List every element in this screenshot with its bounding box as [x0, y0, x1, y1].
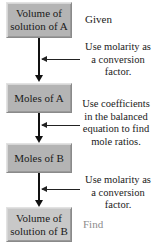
flow-arrow-2-head-icon [35, 136, 43, 143]
annotation-1: Use molarity as a conversion factor. [81, 41, 155, 79]
annotation-2-pointer-icon [42, 125, 80, 126]
box-moles-a: Moles of A [6, 83, 72, 113]
box-volume-solution-b: Volume of solution of B [6, 207, 72, 242]
box-volume-solution-a-line2: solution of A [10, 20, 67, 33]
flow-arrow-3-line [38, 173, 40, 201]
box-volume-solution-a: Volume of solution of A [6, 2, 72, 38]
annotation-3-line-2: a conversion [81, 187, 155, 200]
annotation-2: Use coefficients in the balanced equatio… [77, 98, 155, 148]
annotation-2-line-3: equation to find [77, 123, 155, 136]
annotation-2-line-4: mole ratios. [77, 136, 155, 149]
annotation-3-line-1: Use molarity as [81, 174, 155, 187]
box-moles-a-label: Moles of A [14, 92, 64, 105]
annotation-3: Use molarity as a conversion factor. [81, 174, 155, 212]
annotation-1-line-2: a conversion [81, 54, 155, 67]
box-volume-solution-b-line1: Volume of [10, 212, 67, 225]
annotation-1-line-3: factor. [81, 66, 155, 79]
annotation-3-pointer-icon [42, 189, 80, 190]
box-volume-solution-b-line2: solution of B [10, 225, 67, 238]
box-moles-b: Moles of B [6, 143, 72, 173]
flow-arrow-1-line [38, 38, 40, 76]
given-label: Given [85, 13, 112, 26]
annotation-1-line-1: Use molarity as [81, 41, 155, 54]
annotation-2-line-2: in the balanced [77, 111, 155, 124]
flow-arrow-1-head-icon [35, 75, 43, 82]
flow-arrow-2-line [38, 113, 40, 137]
annotation-2-line-1: Use coefficients [77, 98, 155, 111]
box-moles-b-label: Moles of B [14, 152, 64, 165]
find-label: Find [83, 218, 103, 231]
box-volume-solution-a-line1: Volume of [10, 7, 67, 20]
annotation-1-pointer-icon [42, 59, 80, 60]
annotation-3-line-3: factor. [81, 199, 155, 212]
flow-arrow-3-head-icon [35, 200, 43, 207]
